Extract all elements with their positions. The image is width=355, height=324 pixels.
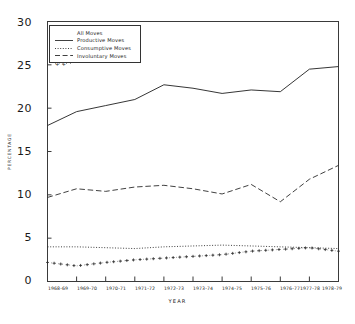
legend-swatch-plus-dashdot: + +: [54, 52, 74, 59]
legend-swatch-solid: [54, 29, 74, 36]
legend-item-consumptive-moves: Consumptive Moves: [54, 44, 137, 52]
legend-swatch-dotted: [54, 37, 74, 44]
legend-label: All Moves: [77, 30, 103, 36]
chart-legend: All Moves Productive Moves Consumptive M…: [49, 25, 141, 63]
svg-text:+: +: [62, 61, 67, 67]
legend-item-involuntary-moves: + + Involuntary Moves: [54, 52, 137, 60]
x-tick-label: 1978-79: [310, 286, 354, 291]
x-axis-title: YEAR: [0, 298, 355, 304]
legend-swatch-dashed: [54, 44, 74, 51]
line-chart-figure: 30 25 20 15 10 5 0 PERCENTAGE 1968-69 19…: [0, 0, 355, 324]
svg-text:+: +: [55, 61, 60, 67]
legend-item-all-moves: All Moves: [54, 29, 137, 37]
legend-label: Consumptive Moves: [77, 45, 131, 51]
legend-label: Involuntary Moves: [77, 53, 126, 59]
legend-label: Productive Moves: [77, 37, 124, 43]
legend-item-productive-moves: Productive Moves: [54, 37, 137, 45]
